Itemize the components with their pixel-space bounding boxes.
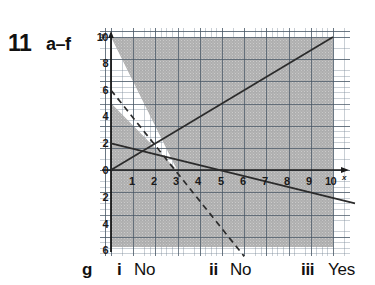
x-tick-2: 2 <box>151 176 157 187</box>
x-axis-label: x <box>342 174 346 182</box>
page-root: 11 a–f <box>0 0 375 285</box>
line-descending <box>111 143 355 203</box>
y-tick-4: 4 <box>86 111 108 122</box>
y-tick-6: 6 <box>86 85 108 96</box>
x-tick-5: 5 <box>218 176 224 187</box>
answer-value-ii: No <box>230 258 251 282</box>
y-axis-arrow <box>108 31 114 38</box>
y-tick-neg2: 2 <box>86 192 108 203</box>
answer-numeral-iii: iii <box>301 258 314 282</box>
y-tick-0: 0 <box>86 165 108 176</box>
y-tick-neg6: 6 <box>86 245 108 256</box>
answer-numeral-ii: ii <box>209 258 218 282</box>
question-parts: a–f <box>46 34 71 55</box>
line-ascending <box>111 37 333 170</box>
line-dashed-steep <box>111 90 244 256</box>
answers-row: g i No ii No iii Yes <box>0 258 375 284</box>
x-tick-1: 1 <box>129 176 135 187</box>
y-tick-2: 2 <box>86 138 108 149</box>
x-tick-9: 9 <box>306 176 312 187</box>
x-tick-4: 4 <box>195 176 201 187</box>
y-tick-8: 8 <box>86 58 108 69</box>
x-tick-8: 8 <box>284 176 290 187</box>
y-tick-neg4: 4 <box>86 219 108 230</box>
graph-figure: y x 10 8 6 4 2 0 2 4 6 1 2 3 4 5 6 7 8 9… <box>100 28 350 256</box>
answer-part-label: g <box>82 258 92 282</box>
plot-lines-layer <box>100 28 350 256</box>
question-number: 11 <box>8 30 31 57</box>
answer-value-iii: Yes <box>328 258 355 282</box>
x-tick-10: 10 <box>325 176 336 187</box>
y-tick-10: 10 <box>86 32 108 43</box>
answer-value-i: No <box>134 258 155 282</box>
x-tick-7: 7 <box>262 176 268 187</box>
answer-numeral-i: i <box>117 258 121 282</box>
x-tick-6: 6 <box>240 176 246 187</box>
x-tick-3: 3 <box>173 176 179 187</box>
